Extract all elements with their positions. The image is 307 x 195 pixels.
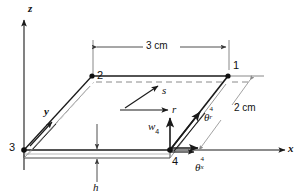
node-2-dot	[89, 73, 94, 78]
node-label-1: 1	[233, 60, 239, 71]
dimension-label-2cm: 2 cm	[234, 103, 256, 113]
dimension-label-h: h	[93, 182, 99, 193]
dimension-label-3cm: 3 cm	[146, 41, 168, 51]
node-4-dot	[167, 147, 173, 153]
dof-theta-x-superscript: 4	[200, 156, 204, 163]
local-axis-s	[125, 86, 158, 108]
dof-w4-subscript: 4	[155, 128, 159, 135]
local-axis-label-r: r	[172, 104, 176, 115]
node-1-dot	[225, 73, 230, 78]
axis-label-z: z	[28, 3, 32, 14]
node-3-dot	[21, 147, 27, 153]
local-axis-label-s: s	[162, 85, 166, 96]
axis-y-arrow	[30, 122, 56, 149]
dof-label-w4: w4	[148, 117, 159, 135]
dof-theta-r-superscript: 4	[209, 106, 213, 113]
dof-theta-x-subscript: x	[200, 164, 203, 171]
dof-theta-r-arrow	[170, 112, 205, 151]
diagram-vectors	[0, 0, 307, 195]
plate-top-face	[24, 76, 228, 150]
dof-label-theta-x4: θ4x	[195, 158, 200, 174]
hidden-edges	[28, 82, 252, 155]
axis-label-x: x	[288, 143, 294, 154]
dof-theta-r-subscript: r	[209, 114, 212, 121]
node-label-4: 4	[172, 156, 178, 167]
node-label-2: 2	[97, 70, 103, 81]
figure-canvas: z x y s r 1 2 3 4 3 cm 2 cm h w4 θ4r θ4x	[0, 0, 307, 195]
axis-label-y: y	[44, 106, 49, 117]
plate-thickness-lines	[24, 84, 226, 158]
dof-label-theta-r4: θ4r	[204, 108, 209, 124]
node-label-3: 3	[9, 142, 15, 153]
